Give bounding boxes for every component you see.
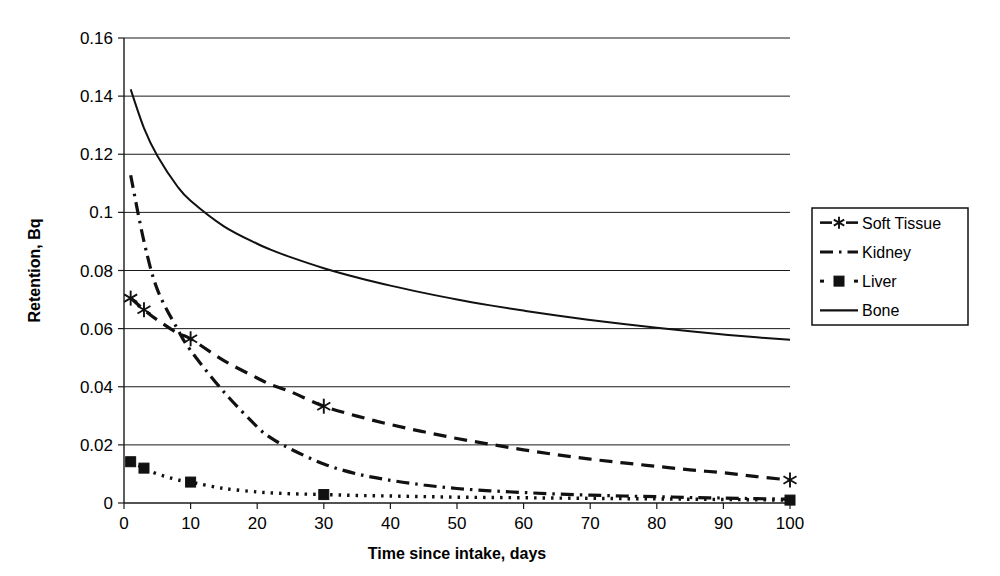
y-tick-label-7: 0.14 bbox=[80, 87, 113, 106]
x-tick-label-0: 0 bbox=[119, 514, 128, 533]
legend-label-2: Liver bbox=[862, 273, 897, 290]
y-tick-label-3: 0.06 bbox=[80, 320, 113, 339]
x-axis-title: Time since intake, days bbox=[368, 545, 547, 562]
x-tick-label-5: 50 bbox=[448, 514, 467, 533]
y-tick-label-5: 0.1 bbox=[89, 203, 113, 222]
y-tick-label-1: 0.02 bbox=[80, 436, 113, 455]
retention-decay-chart: 00.020.040.060.080.10.120.140.16 0102030… bbox=[0, 0, 1000, 576]
legend-label-1: Kidney bbox=[862, 244, 911, 261]
x-tick-label-2: 20 bbox=[248, 514, 267, 533]
marker-liver-3 bbox=[319, 490, 329, 500]
y-tick-label-2: 0.04 bbox=[80, 378, 113, 397]
x-tick-label-9: 90 bbox=[714, 514, 733, 533]
x-tick-label-1: 10 bbox=[181, 514, 200, 533]
x-tick-label-3: 30 bbox=[314, 514, 333, 533]
x-tick-label-4: 40 bbox=[381, 514, 400, 533]
y-tick-label-0: 0 bbox=[104, 494, 113, 513]
legend-label-0: Soft Tissue bbox=[862, 215, 941, 232]
marker-liver-4 bbox=[785, 495, 795, 505]
chart-legend[interactable]: Soft TissueKidneyLiverBone bbox=[812, 208, 968, 325]
x-tick-label-6: 60 bbox=[514, 514, 533, 533]
legend-label-3: Bone bbox=[862, 302, 899, 319]
x-tick-label-10: 100 bbox=[776, 514, 804, 533]
legend-marker-square-2 bbox=[834, 276, 844, 286]
y-axis-title: Retention, Bq bbox=[26, 219, 43, 323]
y-tick-label-6: 0.12 bbox=[80, 145, 113, 164]
x-tick-label-7: 70 bbox=[581, 514, 600, 533]
y-tick-label-4: 0.08 bbox=[80, 262, 113, 281]
chart-container: 00.020.040.060.080.10.120.140.16 0102030… bbox=[0, 0, 1000, 576]
marker-liver-0 bbox=[126, 457, 136, 467]
marker-liver-1 bbox=[139, 463, 149, 473]
x-tick-label-8: 80 bbox=[647, 514, 666, 533]
marker-liver-2 bbox=[186, 477, 196, 487]
y-tick-label-8: 0.16 bbox=[80, 29, 113, 48]
